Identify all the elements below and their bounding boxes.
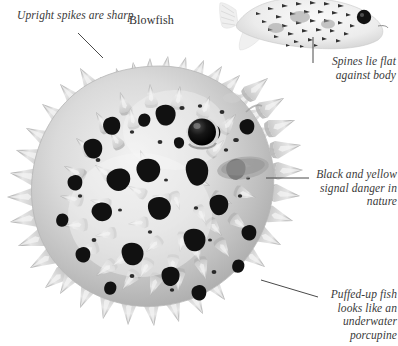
caption-black-and-yellow: Black and yellow signal danger in nature <box>313 168 397 209</box>
caption-blowfish-label: Blowfish <box>129 14 219 28</box>
deflated-fish-eye <box>357 10 371 24</box>
caption-spines-lie-flat: Spines lie flat against body <box>318 55 396 82</box>
blowfish-eye <box>187 118 219 149</box>
caption-upright-spikes: Upright spikes are sharp <box>17 9 137 23</box>
caption-puffed-up-fish: Puffed-up fish looks like an underwater … <box>310 288 397 342</box>
